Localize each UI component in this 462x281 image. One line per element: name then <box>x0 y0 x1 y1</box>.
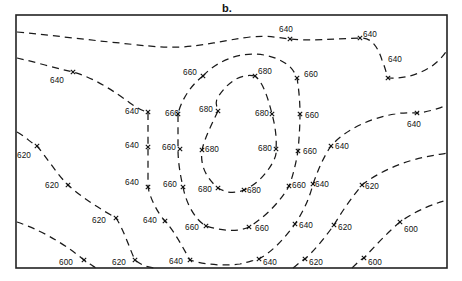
contour-label-660: 660 <box>304 70 318 79</box>
contour-line-600 <box>352 200 447 268</box>
contour-point-marker <box>270 112 274 116</box>
contour-label-640: 640 <box>299 221 313 230</box>
contour-point-marker <box>82 258 86 262</box>
contour-label-660: 660 <box>305 111 319 120</box>
contour-map-figure: b. 6406406406406406406406406406406406406… <box>0 0 462 281</box>
contour-label-640: 640 <box>50 76 64 85</box>
contour-label-640: 640 <box>388 55 402 64</box>
contour-marker-group <box>35 36 419 262</box>
contour-point-marker <box>71 70 75 74</box>
contour-line-600 <box>17 222 96 268</box>
contour-label-640: 640 <box>125 178 139 187</box>
contour-label-660: 660 <box>162 143 176 152</box>
contour-point-marker <box>293 222 297 226</box>
contour-label-640: 640 <box>279 25 293 34</box>
contour-point-marker <box>216 109 220 113</box>
contour-label-660: 660 <box>255 224 269 233</box>
contour-label-660: 660 <box>185 223 199 232</box>
contour-line-640 <box>17 32 447 78</box>
contour-label-660: 660 <box>303 147 317 156</box>
contour-point-marker <box>362 256 366 260</box>
contour-label-600: 600 <box>59 258 73 267</box>
contour-point-marker <box>329 144 333 148</box>
contour-label-620: 620 <box>338 223 352 232</box>
contour-point-marker <box>163 219 167 223</box>
contour-point-marker <box>257 257 261 261</box>
contour-label-640: 640 <box>125 141 139 150</box>
contour-point-marker <box>332 223 336 227</box>
contour-label-620: 620 <box>45 181 59 190</box>
contour-label-680: 680 <box>255 109 269 118</box>
contour-label-640: 640 <box>363 30 377 39</box>
contour-label-660: 660 <box>292 181 306 190</box>
contour-point-marker <box>398 220 402 224</box>
contour-label-600: 600 <box>368 258 382 267</box>
contour-line-660 <box>178 54 300 230</box>
contour-point-marker <box>114 216 118 220</box>
contour-label-640: 640 <box>315 180 329 189</box>
contour-label-620: 620 <box>92 216 106 225</box>
contour-label-620: 620 <box>17 151 31 160</box>
contour-line-640 <box>17 58 447 265</box>
contour-label-620: 620 <box>365 182 379 191</box>
contour-label-640: 640 <box>263 258 277 267</box>
contour-label-640: 640 <box>335 142 349 151</box>
contour-label-640: 640 <box>169 257 183 266</box>
contour-label-660: 660 <box>165 109 179 118</box>
contour-label-680: 680 <box>198 185 212 194</box>
contour-point-marker <box>66 183 70 187</box>
contour-point-marker <box>201 74 205 78</box>
contour-label-680: 680 <box>199 105 213 114</box>
contour-label-600: 600 <box>404 225 418 234</box>
contour-label-680: 680 <box>205 145 219 154</box>
contour-label-660: 660 <box>163 180 177 189</box>
contour-point-marker <box>216 186 220 190</box>
contour-lines-group <box>17 32 447 268</box>
contour-point-marker <box>178 147 182 151</box>
contour-plot: 6406406406406406406406406406406406406406… <box>0 0 462 281</box>
contour-label-680: 680 <box>258 67 272 76</box>
contour-label-640: 640 <box>407 120 421 129</box>
contour-label-660: 660 <box>183 68 197 77</box>
contour-point-marker <box>133 258 137 262</box>
contour-label-620: 620 <box>309 258 323 267</box>
contour-point-marker <box>35 144 39 148</box>
contour-label-640: 640 <box>143 216 157 225</box>
contour-point-marker <box>360 183 364 187</box>
contour-labels-group: 6406406406406406406406406406406406406406… <box>17 25 421 267</box>
contour-label-680: 680 <box>247 186 261 195</box>
contour-line-620 <box>17 132 158 268</box>
contour-label-680: 680 <box>258 144 272 153</box>
contour-point-marker <box>358 36 362 40</box>
contour-point-marker <box>146 145 150 149</box>
contour-label-620: 620 <box>112 258 126 267</box>
contour-line-680 <box>202 75 277 192</box>
contour-label-640: 640 <box>125 107 139 116</box>
